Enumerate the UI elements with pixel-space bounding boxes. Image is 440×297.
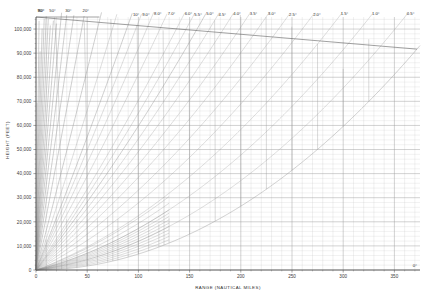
y-tick-label: 90,000 xyxy=(17,51,32,56)
elevation-angle-label: 2.5° xyxy=(289,12,297,17)
x-tick-label: 50 xyxy=(85,274,91,279)
elevation-angle-label: 10° xyxy=(133,12,140,17)
elevation-angle-label: 20° xyxy=(83,8,90,13)
elevation-angle-label: 5.5° xyxy=(194,12,202,17)
y-tick-label: 0 xyxy=(29,268,32,273)
elevation-angle-label: 80° xyxy=(38,8,45,13)
x-tick-label: 0 xyxy=(35,274,38,279)
elevation-angle-label: 7.0° xyxy=(168,11,176,16)
elevation-angle-label: 0° xyxy=(413,263,417,268)
y-tick-label: 60,000 xyxy=(17,123,32,128)
y-tick-label: 70,000 xyxy=(17,99,32,104)
elevation-angle-label: 9.0° xyxy=(142,12,150,17)
elevation-angle-label: 1.5° xyxy=(341,11,349,16)
y-tick-label: 40,000 xyxy=(17,171,32,176)
elevation-angle-label: 50° xyxy=(49,8,56,13)
elevation-angle-label: 3.5° xyxy=(250,11,258,16)
height-range-coverage-chart: 010,00020,00030,00040,00050,00060,00070,… xyxy=(0,0,440,297)
y-tick-label: 10,000 xyxy=(17,244,32,249)
x-tick-label: 300 xyxy=(339,274,347,279)
x-tick-label: 250 xyxy=(288,274,296,279)
elevation-angle-label: 8.0° xyxy=(154,11,162,16)
y-tick-label: 80,000 xyxy=(17,75,32,80)
y-tick-label: 50,000 xyxy=(17,147,32,152)
y-tick-label: 100,000 xyxy=(14,27,32,32)
x-tick-label: 100 xyxy=(135,274,143,279)
elevation-angle-label: 6.0° xyxy=(185,11,193,16)
elevation-angle-label: 0.5° xyxy=(407,11,415,16)
elevation-angle-label: 5.0° xyxy=(206,11,214,16)
y-axis-title: HEIGHT (FEET) xyxy=(5,121,10,159)
elevation-angle-label: 4.0° xyxy=(233,11,241,16)
elevation-angle-label: 4.5° xyxy=(218,12,226,17)
y-tick-label: 20,000 xyxy=(17,220,32,225)
x-tick-label: 150 xyxy=(186,274,194,279)
elevation-angle-label: 1.0° xyxy=(372,11,380,16)
elevation-angle-label: 30° xyxy=(65,8,72,13)
x-tick-label: 350 xyxy=(391,274,399,279)
elevation-angle-label: 3.0° xyxy=(268,11,276,16)
x-axis-title: RANGE (NAUTICAL MILES) xyxy=(195,285,261,290)
elevation-angle-label: 2.0° xyxy=(313,12,321,17)
chart-root: 010,00020,00030,00040,00050,00060,00070,… xyxy=(0,0,440,297)
x-tick-label: 200 xyxy=(237,274,245,279)
y-tick-label: 30,000 xyxy=(17,195,32,200)
